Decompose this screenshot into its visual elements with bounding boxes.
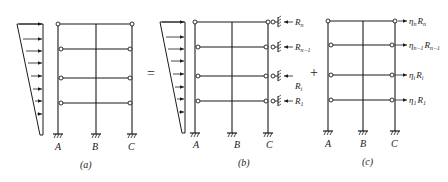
force-label-i: ηiRi — [409, 70, 424, 81]
support-label-b: B — [360, 138, 366, 149]
reaction-label-i: Ri — [294, 81, 303, 92]
support-label-c: C — [128, 141, 135, 152]
fixed-support-icon — [358, 131, 368, 135]
fixed-support-icon — [263, 133, 273, 137]
reaction-label-n-1: Rn−1 — [294, 42, 311, 53]
structural-frame-diagram: A B C (a) = — [0, 0, 448, 182]
support-label-a: A — [324, 138, 332, 149]
support-label-a: A — [192, 139, 200, 150]
fixed-support-icon — [91, 134, 101, 138]
caption-b: (b) — [238, 157, 250, 169]
fixed-support-icon — [127, 134, 137, 138]
support-label-b: B — [92, 141, 98, 152]
fixed-support-icon — [390, 131, 400, 135]
panel-a: A B C (a) — [17, 22, 137, 171]
frame-b — [195, 22, 268, 133]
force-label-1: η1R1 — [409, 95, 426, 106]
spring-restraint-icon — [271, 16, 281, 27]
equals-sign: = — [147, 66, 155, 81]
spring-restraint-icon — [271, 70, 281, 81]
panel-b: Rn Rn−1 Ri R1 A B C (b) — [160, 16, 311, 169]
force-label-n-1: ηn−1Rn−1 — [409, 40, 440, 51]
hinges-c — [326, 19, 397, 102]
support-label-c: C — [266, 139, 273, 150]
fixed-support-icon — [227, 133, 237, 137]
spring-restraint-icon — [271, 41, 281, 52]
frame-c — [328, 21, 395, 131]
reaction-arrows-b — [284, 22, 293, 101]
triangular-load — [160, 22, 185, 133]
triangular-load — [17, 24, 43, 135]
hinges-a — [56, 22, 134, 105]
caption-c: (c) — [362, 156, 374, 168]
caption-a: (a) — [80, 159, 92, 171]
reaction-label-n: Rn — [294, 17, 304, 28]
support-label-a: A — [54, 141, 62, 152]
support-label-c: C — [391, 138, 398, 149]
frame-a — [58, 24, 132, 134]
fixed-support-icon — [190, 133, 200, 137]
reaction-label-1: R1 — [294, 96, 304, 107]
panel-c: ηnRn ηn−1Rn−1 ηiRi η1R1 A B C (c) — [323, 16, 440, 168]
fixed-support-icon — [53, 134, 63, 138]
force-label-n: ηnRn — [409, 16, 426, 27]
applied-force-arrows-c — [395, 21, 407, 100]
fixed-support-icon — [323, 131, 333, 135]
spring-restraint-icon — [271, 95, 281, 106]
plus-sign: + — [310, 65, 318, 80]
support-label-b: B — [234, 139, 240, 150]
